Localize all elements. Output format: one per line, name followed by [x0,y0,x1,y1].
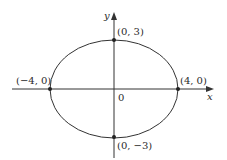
x-axis [12,86,214,92]
point-right [176,87,180,91]
origin-label: 0 [118,92,124,103]
point-top [112,38,116,42]
y-axis-arrow-icon [111,12,117,20]
point-top-label: (0, 3) [117,26,144,37]
ellipse-diagram: y x 0 (0, 3) (−4, 0) (4, 0) (0, −3) [0,0,227,160]
y-axis-label: y [103,10,110,21]
point-bottom-label: (0, −3) [117,140,152,151]
point-bottom [112,135,116,139]
point-left [48,87,52,91]
point-left-label: (−4, 0) [16,75,51,86]
x-axis-label: x [207,91,213,102]
point-right-label: (4, 0) [180,75,207,86]
